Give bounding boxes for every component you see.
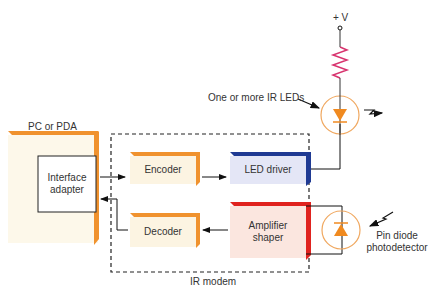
decoder-label: Decoder [130,217,196,247]
incoming-ir-icon [370,212,393,226]
photodetector-label: Pin diode photodetector [366,228,428,256]
supply-terminal [338,26,342,30]
led-callout-label: One or more IR LEDs [208,92,304,104]
led-driver-label: LED driver [230,156,306,184]
supply-label: + V [333,12,348,24]
ir-emission-icon [364,110,382,114]
interface-adapter-label: Interface adapter [38,156,96,212]
amplifier-line1: Amplifier [249,220,288,232]
pc-label: PC or PDA [28,121,77,133]
ir-modem-diagram [0,0,428,297]
photodiode-icon [334,224,348,236]
amplifier-line2: shaper [253,232,284,244]
ir-led-diode-icon [333,109,347,121]
photodetector-line2: photodetector [366,242,427,254]
resistor-icon [333,47,347,78]
interface-adapter-line2: adapter [50,184,84,196]
photodetector-line1: Pin diode [376,230,418,242]
ir-modem-label: IR modem [190,276,236,288]
amplifier-shaper-label: Amplifier shaper [230,206,306,258]
encoder-label: Encoder [130,156,196,184]
interface-adapter-line1: Interface [48,172,87,184]
